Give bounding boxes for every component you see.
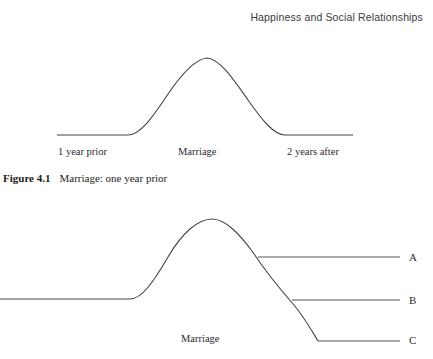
- figure-two-label-center: Marriage: [181, 333, 219, 344]
- figure-caption: Figure 4.1Marriage: one year prior: [3, 172, 167, 184]
- figure-one: 1 year prior Marriage 2 years after: [0, 40, 433, 165]
- figure-one-label-center: Marriage: [178, 146, 216, 157]
- figure-one-label-left: 1 year prior: [58, 146, 107, 157]
- branch-label-c: C: [409, 334, 416, 346]
- page-canvas: Happiness and Social Relationships 1 yea…: [0, 0, 433, 359]
- happiness-curve-two: [0, 219, 318, 341]
- figure-two: Marriage A B C: [0, 195, 433, 359]
- figure-caption-text: Marriage: one year prior: [59, 172, 167, 184]
- figure-one-label-right: 2 years after: [287, 146, 339, 157]
- happiness-curve-one: [57, 58, 353, 135]
- figure-caption-number: Figure 4.1: [3, 172, 50, 184]
- branch-label-a: A: [409, 251, 417, 263]
- running-head: Happiness and Social Relationships: [250, 11, 423, 23]
- branch-label-b: B: [409, 294, 416, 306]
